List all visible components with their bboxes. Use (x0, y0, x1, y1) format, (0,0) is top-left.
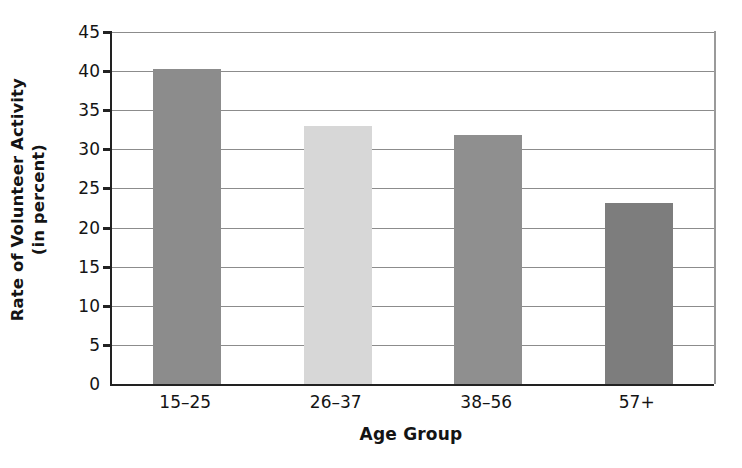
y-axis-tick-label: 10 (56, 297, 100, 314)
y-axis-tick-label: 15 (56, 258, 100, 275)
y-axis-tick-mark (103, 266, 112, 269)
x-axis-tick-label: 57+ (619, 392, 655, 412)
y-axis-tick-label: 0 (56, 376, 100, 393)
bar[interactable] (454, 135, 522, 384)
y-axis-title-line2: (in percent) (29, 78, 50, 321)
y-axis-tick-label: 35 (56, 102, 100, 119)
x-axis-tick-label: 38–56 (460, 392, 512, 412)
plot-right-border (714, 31, 716, 384)
y-axis-tick-mark (103, 109, 112, 112)
bar-chart-figure: Rate of Volunteer Activity (in percent) … (0, 0, 742, 468)
y-axis-tick-mark (103, 31, 112, 34)
y-axis-tick-mark (103, 70, 112, 73)
y-axis-tick-label: 40 (56, 63, 100, 80)
y-axis-tick-label: 30 (56, 141, 100, 158)
plot-area (110, 32, 714, 386)
y-axis-title: Rate of Volunteer Activity (in percent) (0, 0, 58, 400)
y-axis-tick-mark (103, 344, 112, 347)
y-axis-title-line1: Rate of Volunteer Activity (8, 78, 27, 321)
y-axis-tick-mark (103, 187, 112, 190)
y-axis-tick-mark (103, 148, 112, 151)
y-axis-tick-label: 5 (56, 336, 100, 353)
x-axis-title: Age Group (110, 424, 712, 444)
y-axis-tick-label: 25 (56, 180, 100, 197)
y-axis-tick-labels: 051015202530354045 (56, 0, 100, 468)
bar[interactable] (304, 126, 372, 384)
bar[interactable] (153, 69, 221, 384)
plot-inner (112, 32, 714, 384)
y-axis-tick-mark (103, 305, 112, 308)
y-axis-tick-mark (103, 227, 112, 230)
y-axis-tick-label: 45 (56, 24, 100, 41)
bar[interactable] (605, 203, 673, 384)
x-axis-tick-label: 15–25 (159, 392, 211, 412)
y-axis-title-text: Rate of Volunteer Activity (in percent) (8, 78, 49, 321)
x-axis-tick-labels: 15–2526–3738–5657+ (110, 392, 712, 420)
gridline (112, 32, 714, 33)
y-axis-tick-label: 20 (56, 219, 100, 236)
x-axis-tick-label: 26–37 (310, 392, 362, 412)
